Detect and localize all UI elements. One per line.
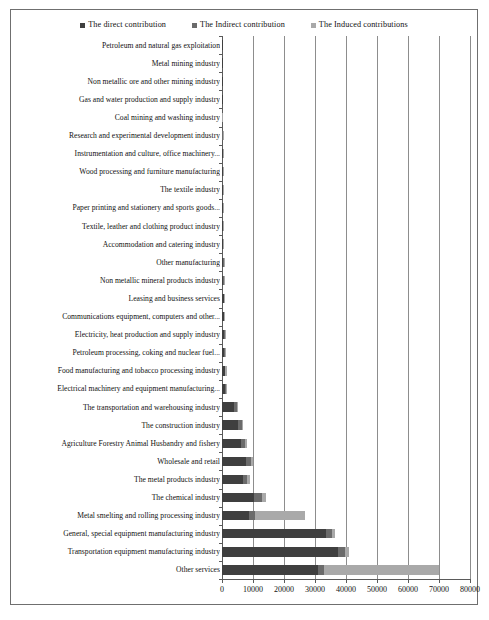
bar-segment-direct [222,547,338,556]
category-label: Agriculture Forestry Animal Husbandry an… [12,439,220,448]
bar-segment-induced [245,439,247,448]
bar-segment-direct [222,493,254,502]
chart-legend: The direct contributionThe Indirect cont… [10,18,478,32]
x-tick-label: 30000 [305,585,325,595]
category-label: The construction industry [12,421,220,430]
legend-entry-indirect: The Indirect contribution [192,20,285,30]
category-label: Petroleum and natural gas exploitation [12,41,220,50]
y-tick [219,72,222,73]
bar-row [222,58,470,67]
category-label: Wholesale and retail [12,457,220,466]
gridline-80000 [470,36,471,579]
category-label: Paper printing and stationery and sports… [12,203,220,212]
y-tick [219,217,222,218]
bar-row [222,149,470,158]
bar-row [222,167,470,176]
x-tick-70000 [439,579,440,583]
legend-swatch-direct [80,23,85,28]
y-tick [219,525,222,526]
bar-segment-induced [345,547,349,556]
x-tick-20000 [284,579,285,583]
bar-row [222,402,470,411]
bar-row [222,312,470,321]
stacked-bar-chart: The direct contributionThe Indirect cont… [0,0,489,620]
category-label: Non metallic mineral products industry [12,276,220,285]
y-tick [219,543,222,544]
y-tick [219,289,222,290]
category-label: Petroleum processing, coking and nuclear… [12,348,220,357]
bar-segment-induced [225,348,226,357]
x-tick-10000 [253,579,254,583]
bar-row [222,294,470,303]
x-tick-label: 80000 [460,585,480,595]
bar-row [222,40,470,49]
legend-label-indirect: The Indirect contribution [200,20,285,30]
x-tick-label: 50000 [367,585,387,595]
y-tick [219,308,222,309]
bar-row [222,258,470,267]
y-tick [219,344,222,345]
bar-segment-induced [237,402,238,411]
y-tick [219,145,222,146]
bar-segment-direct [222,511,249,520]
bar-row [222,493,470,502]
x-tick-50000 [377,579,378,583]
y-tick [219,36,222,37]
y-tick [219,235,222,236]
bar-row [222,457,470,466]
legend-entry-induced: The Induced contributions [311,20,408,30]
bar-row [222,95,470,104]
y-tick [219,181,222,182]
bar-row [222,185,470,194]
x-tick-label: 10000 [243,585,263,595]
bar-row [222,366,470,375]
category-label: Metal smelting and rolling processing in… [12,511,220,520]
y-tick [219,326,222,327]
category-label: The metal products industry [12,475,220,484]
x-tick-0 [222,579,223,583]
y-tick [219,452,222,453]
bar-row [222,77,470,86]
category-label: Food manufacturing and tobacco processin… [12,366,220,375]
bar-row [222,203,470,212]
bar-segment-indirect [338,547,345,556]
bar-row [222,330,470,339]
category-label: Other manufacturing [12,258,220,267]
plot-area [222,36,470,579]
bar-row [222,565,470,574]
category-label: Electricity, heat production and supply … [12,330,220,339]
bar-row [222,221,470,230]
legend-label-direct: The direct contribution [88,20,166,30]
x-tick-label: 60000 [398,585,418,595]
y-tick [219,416,222,417]
bar-segment-induced [332,529,335,538]
bar-segment-induced [247,475,249,484]
category-label: Other services [12,565,220,574]
category-label: General, special equipment manufacturing… [12,529,220,538]
bar-row [222,113,470,122]
bar-segment-induced [251,457,253,466]
bar-segment-induced [255,511,305,520]
legend-swatch-induced [311,23,316,28]
bar-segment-direct [222,439,241,448]
category-label: Communications equipment, computers and … [12,312,220,321]
y-tick [219,470,222,471]
category-axis-labels: Petroleum and natural gas exploitationMe… [12,36,220,579]
bar-segment-indirect [249,511,256,520]
category-label: The chemical industry [12,493,220,502]
bar-segment-direct [222,565,318,574]
bar-row [222,511,470,520]
category-label: Gas and water production and supply indu… [12,95,220,104]
bar-segment-induced [224,312,225,321]
legend-label-induced: The Induced contributions [319,20,408,30]
y-tick [219,163,222,164]
y-tick [219,54,222,55]
bar-row [222,547,470,556]
x-tick-60000 [408,579,409,583]
bar-row [222,131,470,140]
y-tick [219,271,222,272]
category-label: Wood processing and furniture manufactur… [12,167,220,176]
bar-segment-direct [222,402,234,411]
x-tick-30000 [315,579,316,583]
y-tick [219,108,222,109]
